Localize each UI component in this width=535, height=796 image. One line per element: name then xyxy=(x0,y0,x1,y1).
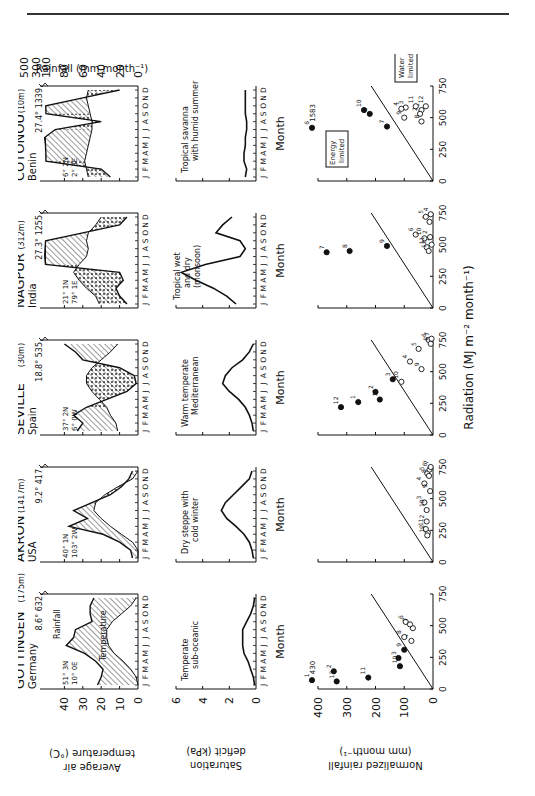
svg-text:3: 3 xyxy=(384,372,391,376)
svg-text:N: N xyxy=(259,476,268,482)
svg-text:J: J xyxy=(141,263,150,266)
saturation-deficit-seville: JFMAMJJASONDMonthWarm temperateMediterra… xyxy=(176,340,287,435)
svg-text:4: 4 xyxy=(197,697,210,704)
svg-text:Month: Month xyxy=(274,370,287,405)
saturation-deficit-gottingen: JFMAMJJASONDMonthTemperatesub-oceanic xyxy=(176,594,287,689)
climate-type-label: Dry steppe with xyxy=(181,490,190,554)
svg-text:D: D xyxy=(259,214,268,220)
station-lat: 40° 1N xyxy=(62,534,70,558)
svg-text:A: A xyxy=(141,118,150,124)
saturation-deficit-cotonou: JFMAMJJASONDMonthTropical savannawith hu… xyxy=(176,80,287,181)
svg-text:deficit (kPa): deficit (kPa) xyxy=(186,746,246,757)
svg-text:M: M xyxy=(259,269,268,275)
svg-text:10: 10 xyxy=(391,655,398,663)
svg-text:N: N xyxy=(141,603,150,609)
scatter-akron: 0250500750123456789101112 xyxy=(318,458,448,565)
svg-text:10: 10 xyxy=(392,371,399,379)
climate-diagram-nagpur: NAGPUR(312m)India27.3° 125521° 1N79° 1EJ… xyxy=(18,210,150,308)
svg-text:10: 10 xyxy=(418,499,425,507)
svg-text:A: A xyxy=(259,626,268,632)
station-summary: 18.8° 535 xyxy=(35,342,44,382)
svg-text:J: J xyxy=(259,509,268,512)
svg-text:F: F xyxy=(141,294,150,298)
svg-text:6: 6 xyxy=(170,697,183,704)
svg-text:M: M xyxy=(259,650,268,656)
svg-text:750: 750 xyxy=(438,77,448,94)
svg-text:D: D xyxy=(259,468,268,474)
svg-text:J: J xyxy=(141,557,150,560)
station-country: Germany xyxy=(27,643,38,689)
svg-text:S: S xyxy=(259,238,268,243)
station-elevation: (1417m) xyxy=(18,479,26,513)
svg-text:Month: Month xyxy=(274,624,287,659)
svg-text:F: F xyxy=(259,675,268,679)
climate-diagram-gottingen: GÖTTINGEN(175m)Germany8.6° 63251° 3N10° … xyxy=(18,573,150,689)
svg-text:500: 500 xyxy=(438,236,448,253)
normalized-rainfall-axis: 0100200300400Normalized rainfall(mm mont… xyxy=(312,697,440,771)
svg-text:J: J xyxy=(141,303,150,306)
svg-text:M: M xyxy=(141,285,150,291)
svg-text:D: D xyxy=(259,595,268,601)
svg-text:1: 1 xyxy=(349,395,356,399)
page-top-rule xyxy=(27,13,509,15)
svg-text:12: 12 xyxy=(420,240,427,248)
svg-text:F: F xyxy=(259,548,268,552)
station-name: SEVILLE xyxy=(18,383,27,435)
svg-text:F: F xyxy=(141,167,150,171)
svg-text:0: 0 xyxy=(250,697,263,704)
svg-text:J: J xyxy=(259,382,268,385)
svg-text:with humid summer: with humid summer xyxy=(191,80,200,161)
svg-text:2: 2 xyxy=(325,664,332,668)
svg-text:750: 750 xyxy=(438,331,448,348)
svg-text:N: N xyxy=(259,222,268,228)
svg-text:11: 11 xyxy=(371,389,378,397)
svg-text:F: F xyxy=(259,294,268,298)
svg-text:M: M xyxy=(259,396,268,402)
svg-text:7: 7 xyxy=(318,245,325,249)
svg-text:J: J xyxy=(141,136,150,139)
climate-type-label: Temperate xyxy=(181,638,190,682)
saturation-deficit-akron: JFMAMJJASONDMonthDry steppe withcold win… xyxy=(176,467,287,562)
svg-text:S: S xyxy=(259,111,268,116)
svg-text:750: 750 xyxy=(438,458,448,475)
svg-text:9: 9 xyxy=(378,239,385,243)
svg-text:11: 11 xyxy=(359,667,366,675)
svg-text:J: J xyxy=(259,263,268,266)
svg-text:O: O xyxy=(259,357,268,363)
svg-text:F: F xyxy=(141,548,150,552)
svg-text:M: M xyxy=(141,142,150,148)
station-country: Benin xyxy=(27,153,38,181)
svg-text:J: J xyxy=(141,128,150,131)
svg-text:S: S xyxy=(141,365,150,370)
svg-text:J: J xyxy=(141,636,150,639)
station-elevation: (312m) xyxy=(18,220,26,249)
svg-text:and dry: and dry xyxy=(183,257,192,288)
svg-text:O: O xyxy=(259,230,268,236)
svg-text:(mm month⁻¹): (mm month⁻¹) xyxy=(339,746,411,757)
svg-text:250: 250 xyxy=(438,394,448,411)
svg-text:sub-oceanic: sub-oceanic xyxy=(191,621,200,669)
svg-text:J: J xyxy=(259,303,268,306)
svg-text:F: F xyxy=(141,675,150,679)
scatter-cotonou: 02505007501234561583789101112Energylimit… xyxy=(303,54,448,184)
station-elevation: (175m) xyxy=(18,573,26,602)
scatter-nagpur: 0250500750123456789101112 xyxy=(318,204,448,311)
svg-text:9: 9 xyxy=(421,484,428,488)
svg-text:F: F xyxy=(259,421,268,425)
svg-text:9: 9 xyxy=(395,643,402,647)
svg-text:4: 4 xyxy=(392,102,399,106)
svg-text:8: 8 xyxy=(420,469,427,473)
svg-text:M: M xyxy=(141,666,150,672)
svg-text:0: 0 xyxy=(438,559,448,565)
svg-text:D: D xyxy=(259,87,268,93)
temperature-axis: 010203040Average airtemperature (°C) xyxy=(49,697,145,773)
station-summary: 27.4° 1339 xyxy=(35,88,44,133)
station-lat: 37° 2N xyxy=(62,407,70,431)
svg-text:Month: Month xyxy=(274,497,287,532)
svg-text:A: A xyxy=(259,499,268,505)
svg-text:Month: Month xyxy=(274,243,287,278)
svg-text:O: O xyxy=(259,484,268,490)
svg-text:A: A xyxy=(259,658,268,664)
station-name: AKRON xyxy=(18,516,27,562)
svg-text:O: O xyxy=(259,103,268,109)
